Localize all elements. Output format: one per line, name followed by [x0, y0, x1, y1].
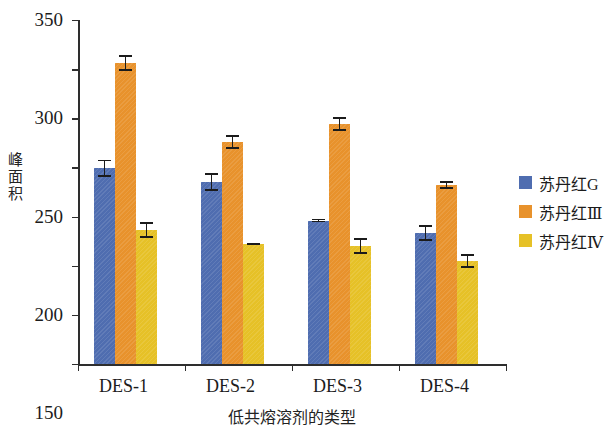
bar-des-3-series-1 [329, 124, 350, 364]
y-tick-mark: 350 [72, 20, 78, 21]
y-tick-mark: 100 [72, 266, 78, 267]
error-bar-cap-top [419, 225, 432, 227]
y-tick-label: 350 [35, 9, 64, 31]
y-axis-title-char-2: 积 [2, 186, 28, 203]
x-category-label-des-2: DES-2 [206, 376, 255, 397]
legend-label: 苏丹红Ⅲ [539, 200, 602, 224]
legend-label: 苏丹红G [539, 171, 599, 195]
legend-item-0[interactable]: 苏丹红G [519, 168, 614, 197]
y-tick-mark: 50 [72, 315, 78, 316]
error-bar-cap-bottom [205, 189, 218, 191]
bar-des-3-series-2 [350, 246, 371, 364]
legend: 苏丹红G苏丹红Ⅲ苏丹红Ⅳ [519, 168, 614, 255]
error-bar-cap-bottom [312, 221, 325, 223]
bar-chart-figure: 峰 面 积 050100150200250300350 DES-1DES-2DE… [0, 0, 614, 433]
y-axis-title-char-1: 面 [2, 169, 28, 186]
y-tick-mark: 150 [72, 217, 78, 218]
error-bar-cap-top [333, 117, 346, 119]
error-bar-cap-bottom [226, 147, 239, 149]
bar-des-4-series-1 [436, 185, 457, 364]
y-tick-mark: 300 [72, 69, 78, 70]
error-bar-cap-bottom [247, 243, 260, 245]
y-tick-label: 300 [35, 107, 64, 129]
error-bar-cap-top [461, 254, 474, 256]
bar-des-1-series-2 [136, 230, 157, 364]
error-bar-cap-top [354, 238, 367, 240]
error-bar-cap-bottom [461, 266, 474, 268]
error-bar-cap-top [140, 222, 153, 224]
x-axis-title: 低共熔溶剂的类型 [78, 404, 506, 428]
legend-swatch-icon [519, 234, 532, 247]
y-tick-mark: 250 [72, 118, 78, 119]
bar-des-4-series-2 [457, 261, 478, 364]
y-tick-label: 200 [35, 303, 64, 325]
bar-des-1-series-0 [94, 168, 115, 364]
plot-area: 050100150200250300350 DES-1DES-2DES-3DES… [78, 20, 506, 364]
x-tick-mark [185, 364, 186, 371]
error-bar-cap-top [119, 55, 132, 57]
legend-label: 苏丹红Ⅳ [539, 229, 603, 253]
error-bar-cap-bottom [333, 129, 346, 131]
error-bar-cap-bottom [140, 236, 153, 238]
error-bar-cap-top [226, 135, 239, 137]
bar-des-2-series-0 [201, 182, 222, 364]
y-axis-title-char-0: 峰 [2, 152, 28, 169]
legend-item-2[interactable]: 苏丹红Ⅳ [519, 226, 614, 255]
bar-des-2-series-2 [243, 244, 264, 364]
error-bar-cap-top [98, 160, 111, 162]
y-tick-label: 150 [35, 402, 64, 424]
bar-des-4-series-0 [415, 233, 436, 364]
error-bar-cap-bottom [440, 187, 453, 189]
error-bar-cap-top [205, 173, 218, 175]
error-bar-cap-bottom [98, 175, 111, 177]
x-category-label-des-3: DES-3 [313, 376, 362, 397]
bar-des-1-series-1 [115, 63, 136, 364]
y-axis-line [78, 20, 80, 364]
y-tick-mark: 200 [72, 167, 78, 168]
x-tick-mark [292, 364, 293, 371]
error-bar-cap-bottom [354, 252, 367, 254]
bar-des-3-series-0 [308, 221, 329, 364]
error-bar-cap-top [440, 181, 453, 183]
legend-item-1[interactable]: 苏丹红Ⅲ [519, 197, 614, 226]
error-bar-cap-bottom [419, 239, 432, 241]
x-tick-mark [78, 364, 79, 371]
x-tick-mark [399, 364, 400, 371]
error-bar-cap-bottom [119, 69, 132, 71]
legend-swatch-icon [519, 205, 532, 218]
x-category-label-des-1: DES-1 [99, 376, 148, 397]
bar-des-2-series-1 [222, 142, 243, 364]
x-category-label-des-4: DES-4 [420, 376, 469, 397]
x-tick-mark [506, 364, 507, 371]
y-tick-label: 250 [35, 205, 64, 227]
legend-swatch-icon [519, 176, 532, 189]
y-axis-title: 峰 面 积 [2, 152, 28, 203]
